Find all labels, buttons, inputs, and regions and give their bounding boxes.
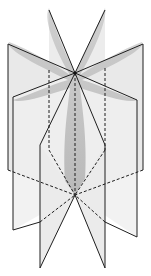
bottom-axis-point — [74, 194, 76, 196]
top-axis-point — [73, 71, 76, 74]
symmetry-planes-diagram — [0, 0, 151, 276]
diagram-canvas — [0, 0, 151, 276]
